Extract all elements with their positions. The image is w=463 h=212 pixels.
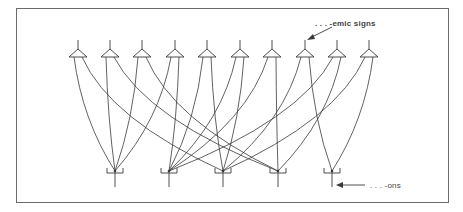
- connection-line: [106, 57, 115, 171]
- on-node: [107, 168, 123, 187]
- triangle-icon: [231, 49, 249, 57]
- emic-sign-node: [198, 40, 216, 57]
- emic-signs-arrowhead-icon: [307, 34, 315, 40]
- emic-sign-node: [69, 40, 87, 57]
- emic-sign-node: [101, 40, 119, 57]
- emic-sign-node: [231, 40, 249, 57]
- on-node: [324, 168, 340, 187]
- emic-sign-node: [328, 40, 346, 57]
- emic-sign-node: [166, 40, 184, 57]
- emic-sign-node: [296, 40, 314, 57]
- connection-line: [169, 57, 268, 171]
- connection-line: [114, 57, 278, 171]
- ons-label: . . . -ons: [370, 181, 401, 190]
- emic-sign-nodes: [69, 40, 378, 57]
- on-node: [270, 168, 286, 187]
- ons-arrowhead-icon: [336, 182, 343, 188]
- emic-sign-node: [360, 40, 378, 57]
- connection-line: [223, 57, 301, 171]
- triangle-icon: [328, 49, 346, 57]
- triangle-icon: [101, 49, 119, 57]
- on-nodes: [107, 168, 340, 187]
- connection-line: [278, 57, 341, 171]
- connection-line: [276, 57, 278, 171]
- triangle-icon: [360, 49, 378, 57]
- triangle-icon: [198, 49, 216, 57]
- connection-line: [115, 57, 138, 171]
- connection-line: [211, 57, 223, 171]
- emic-sign-node: [263, 40, 281, 57]
- emic-sign-node: [133, 40, 151, 57]
- triangle-icon: [166, 49, 184, 57]
- triangle-icon: [69, 49, 87, 57]
- connection-lines: [74, 57, 373, 171]
- diagram-canvas: . . . -emic signs . . . -ons: [0, 0, 463, 212]
- triangle-icon: [133, 49, 151, 57]
- emic-signs-label: . . . -emic signs: [315, 19, 376, 28]
- on-node: [161, 168, 177, 187]
- connection-line: [115, 57, 171, 171]
- triangle-icon: [296, 49, 314, 57]
- connection-line: [332, 57, 373, 171]
- on-node: [215, 168, 231, 187]
- triangle-icon: [263, 49, 281, 57]
- connection-line: [169, 57, 236, 171]
- connection-line: [223, 57, 244, 171]
